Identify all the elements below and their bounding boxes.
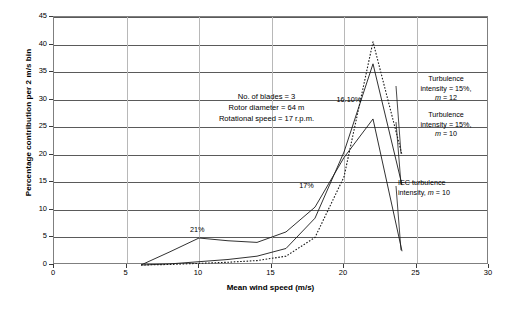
annotation-m-value: = 12: [441, 93, 457, 102]
annotation-line-3: m = 10: [398, 129, 494, 139]
annotation-line-3: m = 12: [398, 93, 494, 103]
annotation-m-value: = 10: [434, 188, 450, 197]
annotation-line-1: IEC turbulence: [398, 178, 502, 188]
annotation-leader-lines: [0, 0, 510, 334]
annotation-line-1: Turbulence: [398, 110, 494, 120]
chart-figure: Percentage contribution per 2 m/s bin Me…: [0, 0, 510, 334]
annotation-m-value: = 10: [441, 129, 457, 138]
annotation-turbulence-m10: Turbulence intensity = 15%, m = 10: [398, 110, 494, 139]
annotation-line-2: intensity = 15%,: [398, 120, 494, 130]
annotation-prefix: intensity,: [398, 188, 428, 197]
annotation-line-1: Turbulence: [398, 74, 494, 84]
annotation-turbulence-m12: Turbulence intensity = 15%, m = 12: [398, 74, 494, 103]
annotation-line-2: intensity = 15%,: [398, 84, 494, 94]
annotation-iec-turbulence: IEC turbulence intensity, m = 10: [398, 178, 502, 197]
annotation-line-2: intensity, m = 10: [398, 188, 502, 198]
